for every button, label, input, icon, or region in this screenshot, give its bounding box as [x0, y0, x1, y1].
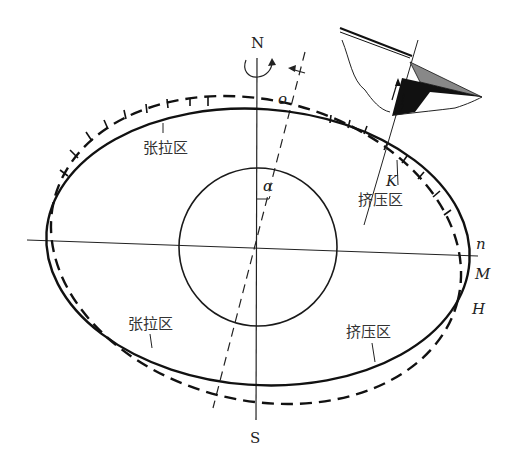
- angle-marker: [257, 196, 270, 199]
- zone-lower-right-label: 挤压区: [346, 323, 391, 341]
- zone-lower-left-label: 张拉区: [128, 315, 173, 333]
- offset-arrowhead: [288, 65, 296, 72]
- point-k-label: K: [385, 172, 398, 190]
- south-label: S: [250, 429, 260, 447]
- horizontal-axis: [27, 240, 478, 256]
- fault-inset: [340, 28, 482, 116]
- tunnel-deformation-diagram: α: [0, 0, 507, 450]
- point-n-label: n: [476, 235, 486, 253]
- zone-upper-left-label: 张拉区: [143, 139, 188, 157]
- tunnel-circle: [179, 168, 337, 326]
- point-o-label: o: [278, 90, 287, 108]
- point-h-label: H: [471, 300, 486, 318]
- north-label: N: [251, 34, 264, 52]
- leader-lower-left: [150, 334, 152, 348]
- rotation-arrow-icon: [245, 60, 272, 77]
- rotation-arrowhead: [268, 58, 276, 66]
- leader-lower-right: [372, 343, 375, 362]
- zone-upper-right-label: 挤压区: [358, 191, 403, 209]
- north-south-axis: [256, 58, 257, 420]
- point-m-label: M: [474, 265, 491, 283]
- solid-contour: [37, 95, 479, 400]
- angle-label: α: [263, 177, 273, 195]
